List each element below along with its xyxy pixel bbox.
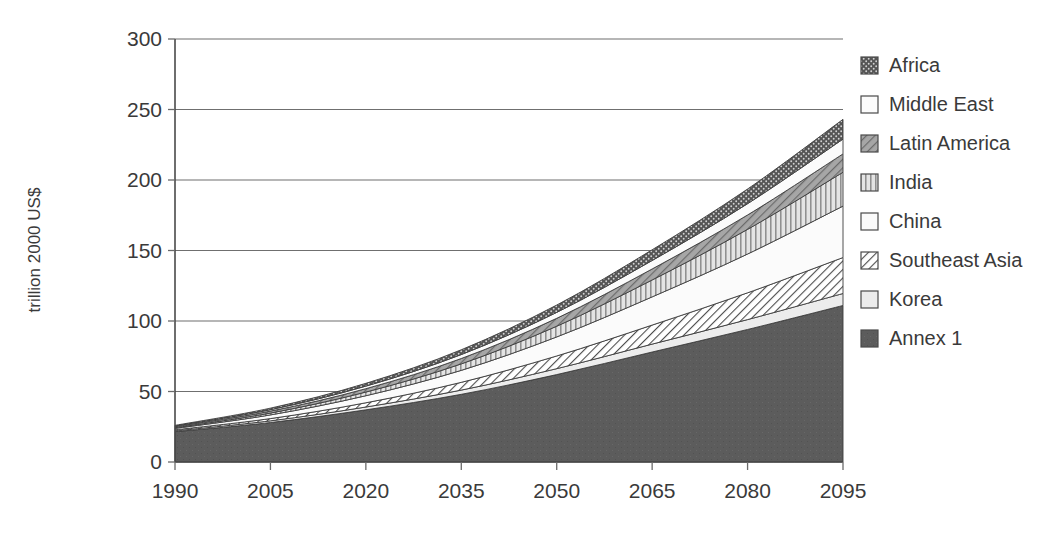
x-tick-label: 1990 [152,479,199,502]
legend-item[interactable]: Annex 1 [861,327,962,349]
x-axis-ticks: 19902005202020352050206520802095 [152,462,867,502]
stacked-area-chart: 050100150200250300 199020052020203520502… [0,0,1053,533]
x-tick-label: 2005 [247,479,294,502]
legend-swatch [861,135,878,152]
chart-figure: 050100150200250300 199020052020203520502… [0,0,1053,533]
legend-item[interactable]: Southeast Asia [861,249,1023,271]
y-tick-label: 50 [139,380,162,403]
legend-item[interactable]: India [861,171,933,193]
legend-swatch [861,252,878,269]
legend-label: India [889,171,933,193]
x-tick-label: 2065 [629,479,676,502]
legend-item[interactable]: China [861,210,942,232]
legend-swatch [861,96,878,113]
legend-label: Africa [889,54,941,76]
y-tick-label: 300 [127,27,162,50]
x-tick-label: 2050 [533,479,580,502]
legend-label: Annex 1 [889,327,962,349]
legend-label: Southeast Asia [889,249,1023,271]
y-tick-label: 150 [127,239,162,262]
legend-label: Middle East [889,93,994,115]
x-tick-label: 2095 [820,479,867,502]
legend-label: Latin America [889,132,1011,154]
legend-item[interactable]: Africa [861,54,941,76]
chart-legend: AfricaMiddle EastLatin AmericaIndiaChina… [861,54,1023,349]
legend-item[interactable]: Korea [861,288,943,310]
legend-label: China [889,210,942,232]
y-axis-title: trillion 2000 US$ [25,187,44,312]
stacked-areas [175,119,843,462]
legend-swatch [861,213,878,230]
legend-label: Korea [889,288,943,310]
y-tick-label: 0 [150,450,162,473]
legend-swatch [861,174,878,191]
legend-swatch [861,330,878,347]
x-tick-label: 2020 [342,479,389,502]
y-tick-label: 100 [127,309,162,332]
legend-item[interactable]: Middle East [861,93,994,115]
y-axis-ticks: 050100150200250300 [127,27,175,473]
legend-item[interactable]: Latin America [861,132,1011,154]
x-tick-label: 2035 [438,479,485,502]
x-tick-label: 2080 [724,479,771,502]
legend-swatch [861,57,878,74]
legend-swatch [861,291,878,308]
y-tick-label: 200 [127,168,162,191]
y-tick-label: 250 [127,98,162,121]
